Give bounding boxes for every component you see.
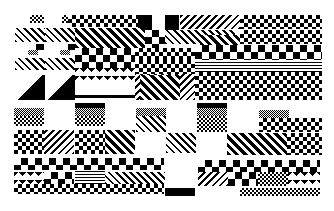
pattern-block — [165, 188, 195, 196]
pattern-block — [288, 172, 320, 186]
pattern-block — [240, 188, 320, 196]
pattern-block — [68, 15, 138, 27]
pattern-block — [240, 30, 322, 44]
pattern-block — [258, 172, 288, 186]
pattern-block — [136, 108, 166, 116]
pattern-block — [136, 116, 166, 132]
pattern-block — [135, 60, 195, 74]
pattern-block — [145, 30, 165, 50]
pattern-block — [75, 28, 145, 48]
pattern-block — [45, 58, 75, 70]
pattern-block — [14, 116, 44, 126]
pattern-block — [287, 133, 322, 155]
pattern-block — [75, 116, 105, 126]
pattern-block — [14, 158, 164, 170]
pattern-block — [45, 28, 75, 42]
pattern-block — [195, 60, 322, 72]
pattern-block — [75, 108, 105, 116]
pattern-block — [14, 184, 164, 194]
pattern-block — [44, 172, 74, 184]
pattern-block — [105, 172, 165, 184]
pattern-mosaic — [0, 0, 334, 211]
pattern-block — [60, 50, 70, 55]
pattern-block — [135, 48, 195, 60]
pattern-block — [75, 170, 105, 184]
pattern-block — [75, 95, 135, 98]
pattern-block — [140, 75, 180, 100]
pattern-block — [195, 72, 322, 100]
pattern-block — [259, 118, 322, 132]
pattern-block — [75, 48, 135, 68]
pattern-block — [166, 133, 196, 153]
pattern-block — [75, 130, 105, 154]
pattern-block — [200, 35, 240, 45]
pattern-block — [15, 75, 45, 100]
pattern-block — [44, 130, 74, 154]
pattern-block — [197, 116, 227, 132]
pattern-block — [197, 108, 227, 116]
pattern-block — [45, 75, 75, 100]
pattern-block — [105, 130, 135, 154]
pattern-block — [75, 68, 135, 80]
pattern-block — [259, 110, 289, 118]
pattern-block — [198, 160, 320, 172]
pattern-block — [28, 50, 38, 55]
pattern-block — [198, 172, 228, 186]
pattern-block — [228, 172, 258, 186]
pattern-block — [15, 28, 45, 42]
pattern-block — [30, 15, 44, 23]
pattern-block — [195, 45, 322, 60]
pattern-block — [14, 108, 44, 116]
pattern-block — [227, 133, 287, 155]
pattern-block — [14, 130, 44, 154]
pattern-block — [165, 15, 179, 31]
pattern-block — [180, 15, 240, 29]
pattern-block — [14, 172, 44, 184]
pattern-block — [240, 15, 322, 29]
pattern-block — [15, 58, 45, 70]
